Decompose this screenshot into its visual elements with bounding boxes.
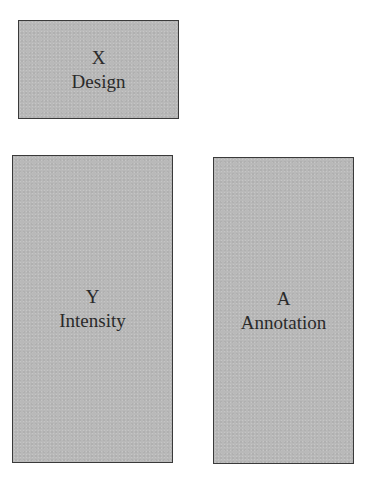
intensity-label: Intensity: [59, 309, 126, 333]
annotation-symbol: A: [277, 287, 291, 311]
design-box: X Design: [18, 20, 179, 119]
design-symbol: X: [92, 46, 106, 70]
annotation-box: A Annotation: [213, 157, 354, 464]
intensity-symbol: Y: [86, 285, 100, 309]
design-label: Design: [72, 70, 126, 94]
annotation-label: Annotation: [241, 311, 327, 335]
intensity-box: Y Intensity: [12, 155, 173, 463]
